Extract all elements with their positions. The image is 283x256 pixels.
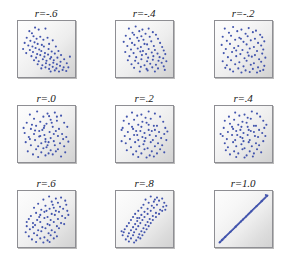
data-point bbox=[154, 212, 156, 214]
data-point bbox=[146, 147, 148, 149]
data-point bbox=[221, 239, 223, 241]
data-point bbox=[52, 62, 54, 64]
data-point bbox=[47, 54, 49, 56]
data-point bbox=[260, 44, 262, 46]
data-point bbox=[39, 36, 41, 38]
data-point bbox=[150, 205, 152, 207]
data-point bbox=[251, 155, 253, 157]
data-point bbox=[237, 152, 239, 154]
data-point bbox=[127, 240, 129, 242]
data-point bbox=[41, 129, 43, 131]
data-point bbox=[45, 210, 47, 212]
data-point bbox=[37, 145, 39, 147]
data-point bbox=[43, 52, 45, 54]
data-point bbox=[139, 130, 141, 132]
data-point bbox=[236, 134, 238, 136]
data-point bbox=[144, 117, 146, 119]
data-point bbox=[29, 144, 31, 146]
data-point bbox=[161, 198, 163, 200]
data-point bbox=[135, 56, 137, 58]
data-point bbox=[148, 134, 150, 136]
data-point bbox=[57, 128, 59, 130]
data-point bbox=[67, 66, 69, 68]
data-point bbox=[141, 234, 143, 236]
data-point bbox=[48, 68, 50, 70]
data-point bbox=[137, 156, 139, 158]
data-point bbox=[132, 52, 134, 54]
data-point bbox=[136, 220, 138, 222]
data-point bbox=[40, 44, 42, 46]
data-point bbox=[226, 131, 228, 133]
data-point bbox=[148, 218, 150, 220]
data-point bbox=[39, 237, 41, 239]
plot-area bbox=[115, 20, 174, 78]
data-point bbox=[234, 39, 236, 41]
data-point bbox=[52, 221, 54, 223]
scatter-points bbox=[18, 21, 75, 77]
data-point bbox=[137, 124, 139, 126]
data-point bbox=[42, 45, 44, 47]
data-point bbox=[129, 237, 131, 239]
data-point bbox=[252, 62, 254, 64]
data-point bbox=[128, 55, 130, 57]
data-point bbox=[60, 115, 62, 117]
panel-label: r=1.0 bbox=[204, 177, 282, 190]
data-point bbox=[43, 134, 45, 136]
data-point bbox=[221, 60, 223, 62]
data-point bbox=[34, 129, 36, 131]
scatter-panel-3: r=-.2 bbox=[204, 7, 282, 78]
data-point bbox=[122, 41, 124, 43]
data-point bbox=[241, 148, 243, 150]
data-point bbox=[46, 113, 48, 115]
data-point bbox=[43, 56, 45, 58]
data-point bbox=[138, 145, 140, 147]
data-point bbox=[152, 201, 154, 203]
data-point bbox=[34, 139, 36, 141]
data-point bbox=[164, 53, 166, 55]
data-point bbox=[51, 204, 53, 206]
data-point bbox=[146, 213, 148, 215]
data-point bbox=[140, 54, 142, 56]
data-point bbox=[242, 65, 244, 67]
data-point bbox=[53, 112, 55, 114]
data-point bbox=[29, 215, 31, 217]
data-point bbox=[227, 116, 229, 118]
data-point bbox=[27, 235, 29, 237]
data-point bbox=[152, 207, 154, 209]
data-point bbox=[225, 40, 227, 42]
data-point bbox=[160, 137, 162, 139]
data-point bbox=[134, 223, 136, 225]
data-point bbox=[253, 54, 255, 56]
data-point bbox=[227, 32, 229, 34]
data-point bbox=[147, 129, 149, 131]
data-point bbox=[133, 67, 135, 69]
data-point bbox=[121, 234, 123, 236]
data-point bbox=[37, 203, 39, 205]
data-point bbox=[245, 154, 247, 156]
data-point bbox=[232, 26, 234, 28]
data-point bbox=[42, 241, 44, 243]
data-point bbox=[35, 212, 37, 214]
data-point bbox=[141, 136, 143, 138]
data-point bbox=[32, 118, 34, 120]
scatter-panel-4: r=.0 bbox=[7, 92, 85, 163]
data-point bbox=[237, 45, 239, 47]
data-point bbox=[130, 42, 132, 44]
data-point bbox=[253, 38, 255, 40]
data-point bbox=[140, 58, 142, 60]
data-point bbox=[35, 38, 37, 40]
data-point bbox=[60, 197, 62, 199]
data-point bbox=[141, 121, 143, 123]
data-point bbox=[244, 33, 246, 35]
data-point bbox=[44, 227, 46, 229]
data-point bbox=[151, 215, 153, 217]
scatter-points bbox=[215, 21, 272, 77]
data-point bbox=[241, 49, 243, 51]
data-point bbox=[153, 129, 155, 131]
data-point bbox=[38, 48, 40, 50]
data-point bbox=[32, 133, 34, 135]
data-point bbox=[28, 228, 30, 230]
data-point bbox=[247, 27, 249, 29]
data-point bbox=[238, 61, 240, 63]
data-point bbox=[258, 129, 260, 131]
